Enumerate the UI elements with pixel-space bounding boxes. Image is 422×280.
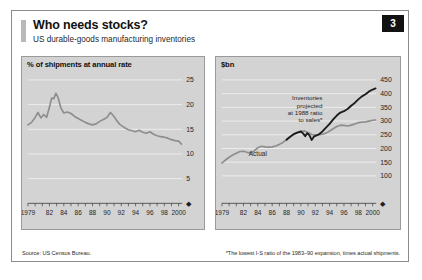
page-title: Who needs stocks? bbox=[33, 18, 400, 33]
svg-text:86: 86 bbox=[75, 209, 83, 216]
chart-left-title: % of shipments at annual rate bbox=[27, 60, 132, 69]
svg-text:10: 10 bbox=[186, 150, 194, 157]
svg-text:300: 300 bbox=[380, 117, 392, 124]
svg-text:200: 200 bbox=[380, 145, 392, 152]
svg-text:450: 450 bbox=[380, 76, 392, 83]
svg-text:1979: 1979 bbox=[216, 209, 230, 216]
page-number-badge: 3 bbox=[382, 15, 404, 32]
svg-text:88: 88 bbox=[89, 209, 97, 216]
svg-text:projected: projected bbox=[297, 102, 323, 109]
svg-text:150: 150 bbox=[380, 159, 392, 166]
svg-text:2000: 2000 bbox=[365, 209, 380, 216]
svg-text:94: 94 bbox=[326, 209, 334, 216]
svg-text:to sales*: to sales* bbox=[299, 116, 323, 123]
line-chart-inventories-actual-vs-projected: 100150200250300350400450◆197982848688909… bbox=[216, 74, 400, 229]
title-accent-rule bbox=[21, 20, 26, 42]
svg-text:5: 5 bbox=[186, 175, 190, 182]
svg-text:90: 90 bbox=[297, 209, 305, 216]
svg-text:15: 15 bbox=[186, 126, 194, 133]
chart-right-title: $bn bbox=[221, 60, 234, 69]
svg-text:96: 96 bbox=[146, 209, 154, 216]
svg-text:400: 400 bbox=[380, 90, 392, 97]
chart-left-plot: 510152025◆19798284868890929496982000 bbox=[22, 74, 204, 229]
figure-container: Who needs stocks? US durable-goods manuf… bbox=[11, 10, 409, 262]
source-note: Source: US Census Bureau. bbox=[22, 250, 91, 256]
svg-text:84: 84 bbox=[254, 209, 262, 216]
svg-text:92: 92 bbox=[312, 209, 320, 216]
svg-text:at 1988 ratio: at 1988 ratio bbox=[288, 109, 323, 116]
svg-text:2000: 2000 bbox=[171, 209, 186, 216]
svg-text:1979: 1979 bbox=[22, 209, 36, 216]
line-chart-inventory-sales-ratio: 510152025◆19798284868890929496982000 bbox=[22, 74, 204, 229]
svg-text:20: 20 bbox=[186, 101, 194, 108]
svg-text:98: 98 bbox=[161, 209, 169, 216]
svg-text:84: 84 bbox=[60, 209, 68, 216]
svg-text:90: 90 bbox=[103, 209, 111, 216]
page-subtitle: US durable-goods manufacturing inventori… bbox=[33, 34, 400, 45]
svg-text:82: 82 bbox=[240, 209, 248, 216]
svg-text:82: 82 bbox=[46, 209, 54, 216]
svg-text:250: 250 bbox=[380, 131, 392, 138]
svg-text:88: 88 bbox=[283, 209, 291, 216]
chart-panel-left: % of shipments at annual rate 510152025◆… bbox=[21, 56, 205, 230]
chart-right-plot: 100150200250300350400450◆197982848688909… bbox=[216, 74, 400, 229]
svg-text:100: 100 bbox=[380, 172, 392, 179]
svg-text:25: 25 bbox=[186, 76, 194, 83]
svg-text:Inventories: Inventories bbox=[292, 94, 322, 101]
svg-text:Actual: Actual bbox=[249, 150, 268, 157]
footnote-note: *The lowest I-S ratio of the 1983–90 exp… bbox=[226, 250, 400, 256]
chart-panel-right: $bn 100150200250300350400450◆19798284868… bbox=[215, 56, 401, 230]
figure-header: Who needs stocks? US durable-goods manuf… bbox=[33, 18, 400, 45]
svg-text:94: 94 bbox=[132, 209, 140, 216]
svg-text:92: 92 bbox=[118, 209, 126, 216]
svg-text:86: 86 bbox=[269, 209, 277, 216]
svg-text:96: 96 bbox=[340, 209, 348, 216]
svg-text:350: 350 bbox=[380, 104, 392, 111]
svg-text:98: 98 bbox=[355, 209, 363, 216]
